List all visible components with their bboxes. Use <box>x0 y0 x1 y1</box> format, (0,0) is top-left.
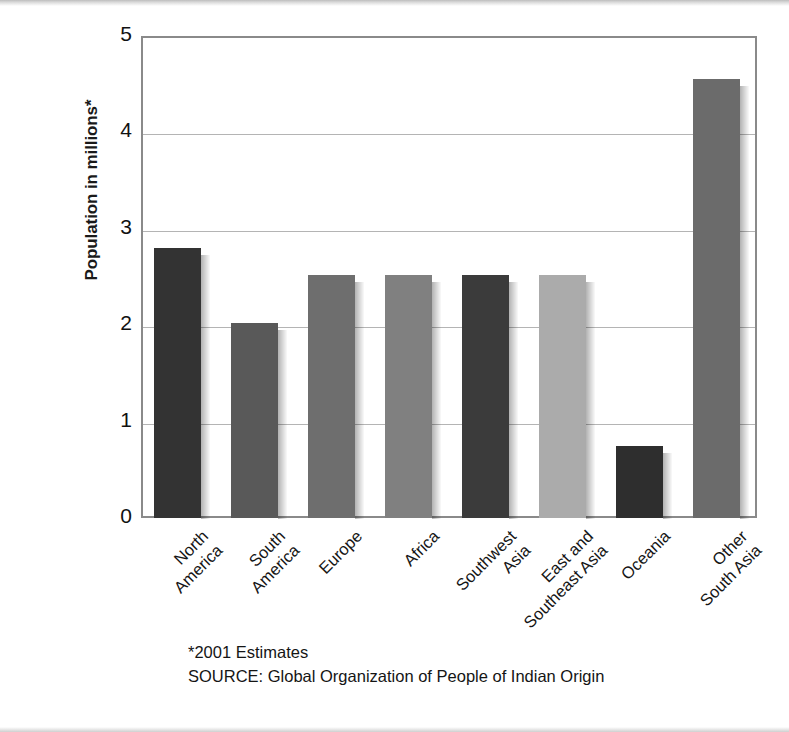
y-tick-label-5: 5 <box>92 22 132 46</box>
bar-shadow <box>586 282 595 519</box>
bar-fill <box>462 275 509 518</box>
page-scan-edge-bottom <box>0 727 789 732</box>
bar-fill <box>539 275 586 518</box>
footnote-estimates: *2001 Estimates <box>188 640 604 664</box>
bar-fill <box>693 79 740 518</box>
footnote-source: SOURCE: Global Organization of People of… <box>188 664 604 688</box>
bar-shadow <box>509 282 518 519</box>
bar-fill <box>616 446 663 518</box>
bar-north-america <box>154 248 201 518</box>
y-axis-tick-labels: 012345 <box>92 36 132 518</box>
bar-shadow <box>201 255 210 519</box>
bar-shadow <box>663 453 672 519</box>
bar-oceania <box>616 446 663 518</box>
y-tick-label-4: 4 <box>92 118 132 142</box>
x-label-line-1: Oceania <box>617 527 673 583</box>
bar-fill <box>385 275 432 518</box>
bar-shadow <box>278 330 287 519</box>
x-label-line-1: Africa <box>400 527 443 570</box>
y-tick-label-0: 0 <box>92 504 132 528</box>
bar-shadow <box>740 86 749 519</box>
bar-fill <box>154 248 201 518</box>
bar-shadow <box>355 282 364 519</box>
y-tick-label-1: 1 <box>92 408 132 432</box>
bar-shadow <box>432 282 441 519</box>
bars-container <box>141 36 757 518</box>
x-axis-category-labels: NorthAmericaSouthAmericaEuropeAfricaSout… <box>141 520 757 640</box>
bar-fill <box>231 323 278 518</box>
bar-southwest-asia <box>462 275 509 518</box>
y-tick-label-3: 3 <box>92 215 132 239</box>
footnotes: *2001 Estimates SOURCE: Global Organizat… <box>188 640 604 688</box>
y-tick-label-2: 2 <box>92 311 132 335</box>
bar-south-america <box>231 323 278 518</box>
bar-fill <box>308 275 355 518</box>
bar-chart-figure: Population in millions* 012345 NorthAmer… <box>0 0 789 732</box>
bar-other-south-asia <box>693 79 740 518</box>
bar-europe <box>308 275 355 518</box>
bar-east-and-southeast-asia <box>539 275 586 518</box>
bar-africa <box>385 275 432 518</box>
x-label-line-1: Europe <box>315 527 365 577</box>
